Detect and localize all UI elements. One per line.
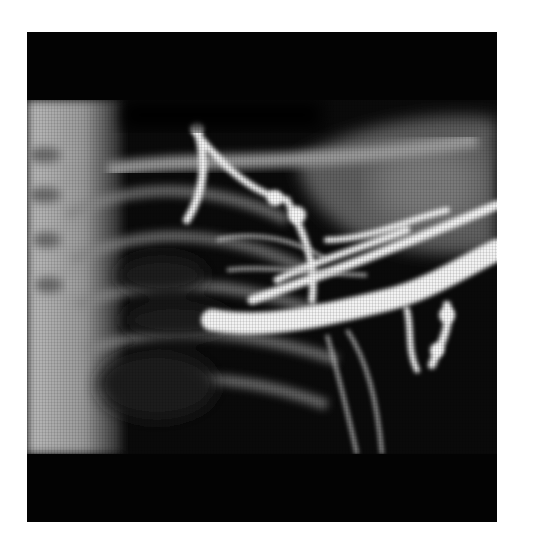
image-frame (27, 32, 497, 522)
xray-image (27, 100, 497, 454)
xray-svg (27, 100, 497, 454)
upper-shadow (122, 100, 322, 130)
